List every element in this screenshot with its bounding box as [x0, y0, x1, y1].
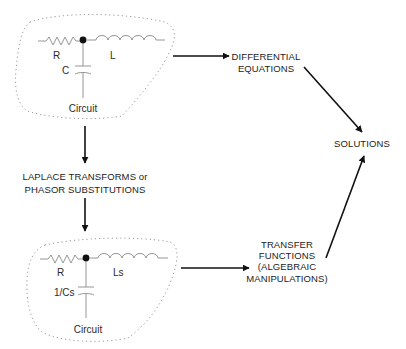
transfer-line1: TRANSFER: [261, 239, 313, 250]
top-inductor-label: L: [110, 50, 116, 61]
transfer-line3: (ALGEBRAIC: [258, 261, 317, 272]
top-resistor-label: R: [53, 50, 60, 61]
flow-diagram: R L C Circuit R Ls 1/Cs Circuit DIFFEREN…: [0, 0, 406, 349]
top-capacitor-label: C: [62, 65, 69, 76]
arrow-differential-to-solutions: [304, 67, 362, 132]
top-capacitor-icon: [75, 43, 91, 98]
differential-line2: EQUATIONS: [238, 63, 294, 74]
solutions-label: SOLUTIONS: [334, 138, 390, 149]
transfer-line4: MANIPULATIONS): [246, 273, 327, 284]
differential-equations-node: DIFFERENTIAL EQUATIONS: [232, 51, 301, 74]
top-resistor-icon: [46, 37, 82, 45]
differential-line1: DIFFERENTIAL: [232, 51, 301, 62]
bottom-circuit-caption: Circuit: [74, 324, 103, 335]
solutions-node: SOLUTIONS: [334, 138, 390, 149]
transfer-line2: FUNCTIONS: [259, 250, 315, 261]
transform-step-node: LAPLACE TRANSFORMS or PHASOR SUBSTITUTIO…: [23, 171, 148, 195]
bottom-resistor-label: R: [57, 267, 64, 278]
top-inductor-icon: [86, 36, 165, 41]
bottom-inductor-icon: [89, 254, 168, 259]
top-circuit-group: R L C Circuit: [16, 15, 175, 119]
transform-line1: LAPLACE TRANSFORMS or: [23, 171, 148, 182]
arrow-transfer-to-solutions: [326, 156, 364, 258]
transform-line2: PHASOR SUBSTITUTIONS: [25, 184, 146, 195]
bottom-capacitor-icon: [78, 261, 94, 318]
bottom-circuit-group: R Ls 1/Cs Circuit: [27, 238, 177, 341]
top-circuit-caption: Circuit: [69, 103, 98, 114]
bottom-node-dot: [83, 255, 90, 262]
bottom-capacitor-label: 1/Cs: [54, 287, 75, 298]
top-node-dot: [80, 37, 87, 44]
bottom-inductor-label: Ls: [113, 267, 124, 278]
transfer-functions-node: TRANSFER FUNCTIONS (ALGEBRAIC MANIPULATI…: [246, 239, 327, 284]
bottom-resistor-icon: [48, 255, 84, 263]
